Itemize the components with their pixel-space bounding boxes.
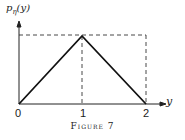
- x-axis-label: y: [166, 96, 172, 107]
- density-line: [19, 36, 146, 104]
- x-tick-2: 2: [143, 108, 149, 119]
- x-tick-0: 0: [15, 108, 21, 119]
- x-tick-1: 1: [80, 108, 86, 119]
- y-axis-label: pη(y): [6, 2, 30, 18]
- chart-canvas: [0, 0, 185, 140]
- figure-caption: Figure 7: [0, 121, 185, 131]
- reference-lines: [19, 35, 146, 104]
- y-axis-arrow-icon: [17, 21, 21, 27]
